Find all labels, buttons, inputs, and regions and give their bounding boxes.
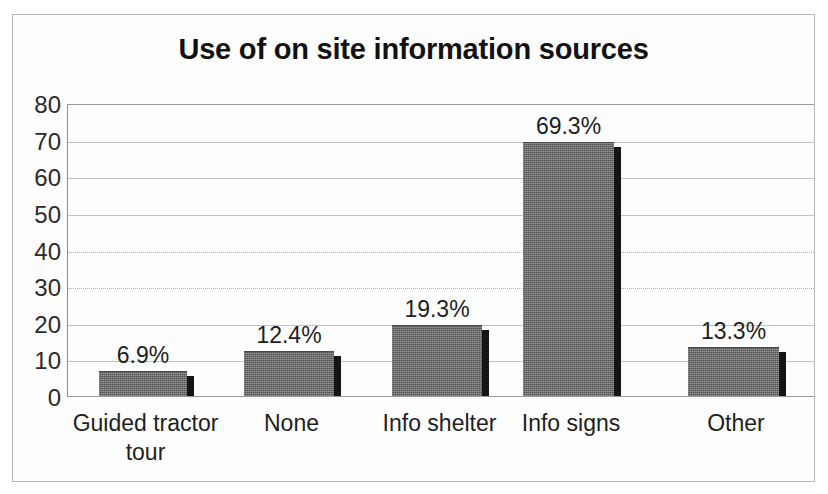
x-axis-category-label-line: Guided tractor	[63, 409, 228, 438]
bar-body	[99, 371, 187, 396]
gridline	[68, 178, 814, 179]
plot-area: 010203040506070806.9%12.4%19.3%69.3%13.3…	[67, 104, 814, 397]
chart-title: Use of on site information sources	[13, 33, 814, 66]
x-axis-category-label: Guided tractortour	[63, 409, 228, 468]
bar[interactable]	[392, 325, 489, 396]
y-axis-tick-label: 50	[34, 203, 61, 227]
bar[interactable]	[523, 142, 621, 396]
gridline	[68, 252, 814, 254]
bar-shadow	[614, 147, 621, 396]
bar-shadow	[187, 376, 194, 396]
x-axis-category-label: None	[208, 409, 375, 438]
x-axis-category-label: Other	[652, 409, 820, 438]
bar-body	[244, 351, 334, 396]
x-axis-category-label-line: Info signs	[487, 409, 655, 438]
bar-value-label: 13.3%	[701, 320, 766, 343]
bar-body	[688, 347, 779, 396]
bar-value-label: 12.4%	[256, 324, 321, 347]
chart-figure: Use of on site information sources 01020…	[12, 14, 815, 482]
gridline	[68, 215, 814, 216]
y-axis-tick-label: 70	[34, 130, 61, 154]
gridline	[68, 288, 814, 290]
y-axis-tick-label: 10	[34, 349, 61, 373]
gridline	[68, 142, 814, 143]
bar-value-label: 69.3%	[536, 115, 601, 138]
bar[interactable]	[688, 347, 786, 396]
x-axis-label-group: Guided tractortourNoneInfo shelterInfo s…	[67, 401, 814, 471]
y-axis-tick-label: 20	[34, 313, 61, 337]
x-axis-category-label-line: None	[208, 409, 375, 438]
bar[interactable]	[99, 371, 194, 396]
x-axis-category-label-line: Other	[652, 409, 820, 438]
x-axis-category-label-line: tour	[63, 438, 228, 467]
y-axis-tick-label: 80	[34, 93, 61, 117]
x-axis-category-label: Info signs	[487, 409, 655, 438]
y-axis-tick-label: 40	[34, 240, 61, 264]
bar-body	[523, 142, 614, 396]
y-axis-tick-label: 0	[48, 386, 61, 410]
y-axis-tick-label: 30	[34, 276, 61, 300]
bar-shadow	[334, 356, 341, 396]
bar-shadow	[482, 330, 489, 396]
bar-value-label: 6.9%	[117, 344, 169, 367]
y-axis-tick-label: 60	[34, 166, 61, 190]
bar[interactable]	[244, 351, 341, 396]
bar-value-label: 19.3%	[404, 298, 469, 321]
bar-body	[392, 325, 482, 396]
bar-shadow	[779, 352, 786, 396]
